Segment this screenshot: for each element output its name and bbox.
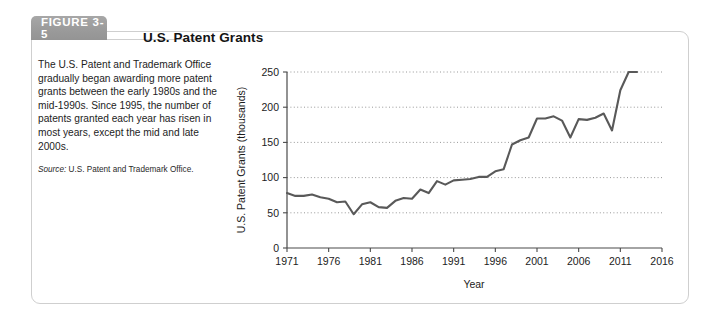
x-axis-ticks: 1971197619811986199119962001200620112016 xyxy=(275,248,674,267)
y-tick-label: 250 xyxy=(261,66,279,78)
x-tick-label: 2016 xyxy=(650,255,674,267)
figure-title: U.S. Patent Grants xyxy=(143,30,263,45)
figure-number-tab: FIGURE 3-5 xyxy=(31,16,107,40)
data-series-line xyxy=(287,72,637,214)
caption-block: The U.S. Patent and Trademark Office gra… xyxy=(38,58,230,175)
x-tick-label: 1991 xyxy=(442,255,466,267)
chart-area: 050100150200250 197119761981198619911996… xyxy=(232,52,682,297)
x-axis-label: Year xyxy=(463,278,485,290)
x-tick-label: 1981 xyxy=(359,255,383,267)
y-tick-label: 0 xyxy=(273,242,279,254)
y-tick-label: 200 xyxy=(261,101,279,113)
x-tick-label: 1986 xyxy=(400,255,424,267)
x-tick-label: 1976 xyxy=(317,255,341,267)
caption-text: The U.S. Patent and Trademark Office gra… xyxy=(38,58,230,153)
figure-container: FIGURE 3-5 U.S. Patent Grants The U.S. P… xyxy=(0,0,712,324)
caption-source: Source: U.S. Patent and Trademark Office… xyxy=(38,164,230,175)
source-label: Source: xyxy=(38,165,66,174)
y-tick-label: 50 xyxy=(267,207,279,219)
x-tick-label: 2001 xyxy=(525,255,549,267)
source-text: U.S. Patent and Trademark Office. xyxy=(66,165,193,174)
x-tick-label: 2011 xyxy=(609,255,632,267)
y-tick-label: 150 xyxy=(261,136,279,148)
y-tick-label: 100 xyxy=(261,171,279,183)
x-tick-label: 2006 xyxy=(567,255,591,267)
y-axis-label: U.S. Patent Grants (thousands) xyxy=(235,87,247,234)
line-chart: 050100150200250 197119761981198619911996… xyxy=(232,52,682,297)
x-tick-label: 1971 xyxy=(275,255,299,267)
y-axis-ticks: 050100150200250 xyxy=(261,66,287,254)
x-tick-label: 1996 xyxy=(484,255,508,267)
grid-lines xyxy=(287,72,662,213)
